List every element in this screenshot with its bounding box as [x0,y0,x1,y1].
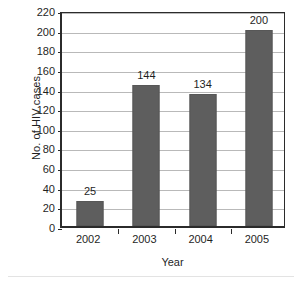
x-axis-tick-label: 2002 [76,233,100,245]
y-axis-tick-label: 40 [43,183,55,194]
scan-artifact-line [8,276,294,277]
bar-value-label: 200 [250,15,268,26]
y-axis-tick-label: 60 [43,164,55,175]
y-axis-tickmark [58,111,62,112]
y-axis-tickmark [58,190,62,191]
x-axis-title: Year [60,256,285,268]
y-axis-tickmark [58,150,62,151]
bar-group: 25 [62,13,118,226]
bar [245,30,272,226]
bar-group: 144 [118,13,174,226]
bar [77,201,104,226]
y-axis-tickmark [58,170,62,171]
y-axis-tickmark [58,52,62,53]
hiv-cases-bar-chart: No. of HIV cases 02040608010012014016018… [0,0,302,281]
x-axis-tick-label: 2005 [245,233,269,245]
y-axis-tick-label: 80 [43,144,55,155]
y-axis-tickmark [58,33,62,34]
x-axis-tick-label: 2003 [132,233,156,245]
y-axis-tick-label: 220 [37,7,55,18]
y-axis-tick-label: 100 [37,124,55,135]
x-axis-tick-label: 2004 [188,233,212,245]
bar [189,94,216,226]
y-axis-tickmark [58,229,62,230]
y-axis-tick-label: 20 [43,203,55,214]
y-axis-tick-labels: 020406080100120140160180200220 [20,12,58,228]
y-axis-tick-label: 180 [37,46,55,57]
plot-area: 25144134200 [60,12,285,228]
bar-value-label: 144 [137,70,155,81]
y-axis-tickmark [58,131,62,132]
y-axis-tickmark [58,13,62,14]
y-axis-tick-label: 140 [37,85,55,96]
y-axis-tick-label: 120 [37,105,55,116]
y-axis-tick-label: 200 [37,26,55,37]
bars: 25144134200 [62,13,284,226]
bar-group: 134 [175,13,231,226]
bar-group: 200 [231,13,287,226]
y-axis-tick-label: 0 [49,223,55,234]
y-axis-tick-label: 160 [37,65,55,76]
bar [133,85,160,226]
bar-value-label: 134 [193,79,211,90]
y-axis-tickmark [58,209,62,210]
y-axis-tickmark [58,92,62,93]
y-axis-tickmark [58,72,62,73]
x-axis-tick-labels: 2002200320042005 [60,233,285,249]
bar-value-label: 25 [84,186,96,197]
